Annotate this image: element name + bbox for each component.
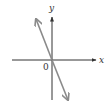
coordinate-plot: x y 0 <box>0 0 109 110</box>
origin-label: 0 <box>43 62 49 72</box>
x-axis-label: x <box>99 55 104 65</box>
y-axis-label: y <box>48 3 55 13</box>
plotted-line-lower <box>52 60 68 100</box>
plotted-line <box>36 19 52 60</box>
